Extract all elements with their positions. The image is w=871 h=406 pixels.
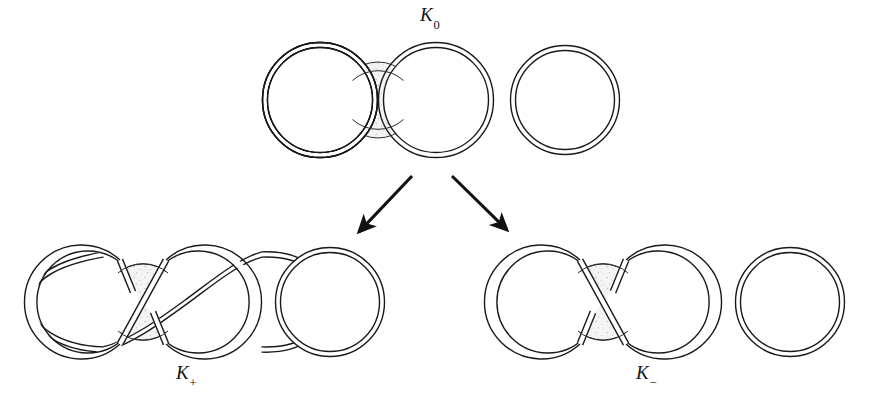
label-k-plus-base: K xyxy=(176,362,189,383)
label-k-minus-base: K xyxy=(636,362,649,383)
label-k0-base: K xyxy=(420,4,433,25)
kplus-separate-ring xyxy=(276,248,385,357)
kminus-separate-ring xyxy=(736,248,845,357)
k0-separate-ring xyxy=(511,46,620,155)
diagram-k-plus xyxy=(24,245,384,359)
arrow-to-k-plus xyxy=(359,176,412,232)
arrow-group xyxy=(359,176,507,232)
label-k0-subscript: 0 xyxy=(433,18,439,32)
k0-right-ring-interior-fill xyxy=(384,48,488,152)
label-k-plus-subscript: + xyxy=(189,376,196,390)
diagram-k0 xyxy=(263,43,620,158)
figure-canvas xyxy=(0,0,871,406)
k0-left-ring-interior-fill xyxy=(268,48,372,152)
figure-root: K0 K+ K− xyxy=(0,0,871,406)
label-k0: K0 xyxy=(420,4,439,30)
label-k-plus: K+ xyxy=(176,362,196,388)
label-k-minus-subscript: − xyxy=(649,376,656,390)
label-k-minus: K− xyxy=(636,362,656,388)
diagram-k-minus xyxy=(484,245,844,359)
arrow-to-k-minus xyxy=(452,176,507,230)
